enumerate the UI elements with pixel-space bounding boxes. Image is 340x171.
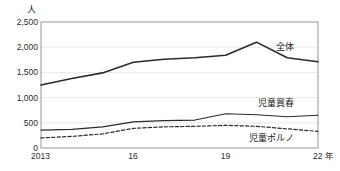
y-axis-tick-label: 2,000 [2,43,38,52]
x-axis-tick-label: 22 [313,152,322,161]
x-axis-tick-label: 16 [128,152,137,161]
plot-frame [41,22,318,148]
x-axis-tick-label: 2013 [31,152,50,161]
line-chart: 人 05001,0001,5002,0002,500 2013161922 年 … [0,0,340,171]
y-axis-tick-label: 2,500 [2,18,38,27]
plot-area [0,0,340,171]
series-label-全体: 全体 [276,43,294,52]
y-axis-ticks: 05001,0001,5002,0002,500 [0,0,38,171]
series-label-児童ポルノ: 児童ポルノ [249,134,294,143]
x-axis-unit-label: 年 [325,152,334,161]
y-axis-tick-label: 1,500 [2,68,38,77]
series-label-児童買春: 児童買春 [258,99,294,108]
series-line-児童買春 [41,114,318,130]
x-axis-tick-label: 19 [221,152,230,161]
y-axis-tick-label: 500 [2,119,38,128]
y-axis-tick-label: 1,000 [2,94,38,103]
